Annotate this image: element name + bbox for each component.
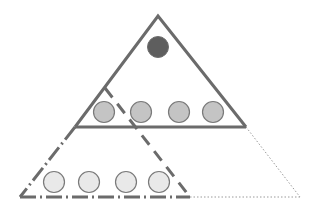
bottom-circle bbox=[44, 172, 65, 193]
middle-circle bbox=[169, 102, 190, 123]
hierarchy-diagram bbox=[0, 0, 317, 213]
middle-circle bbox=[131, 102, 152, 123]
dotted-right-edge bbox=[246, 127, 300, 197]
top-circle bbox=[148, 37, 169, 58]
middle-circle bbox=[94, 102, 115, 123]
bottom-circle bbox=[116, 172, 137, 193]
bottom-circle bbox=[149, 172, 170, 193]
middle-circle bbox=[203, 102, 224, 123]
middle-row bbox=[94, 102, 224, 123]
bottom-circle bbox=[79, 172, 100, 193]
bottom-row bbox=[44, 172, 170, 193]
